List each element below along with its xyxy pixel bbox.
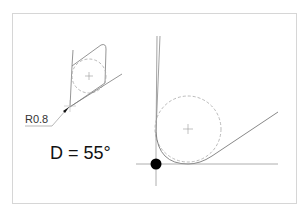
angle-label: D = 55° — [50, 143, 111, 164]
contact-point-dot — [151, 159, 162, 170]
diagram-canvas — [0, 0, 305, 212]
radius-label: R0.8 — [25, 113, 48, 125]
detail-edge-line-2 — [156, 36, 157, 140]
insert-cutting-edge-line — [68, 74, 122, 108]
insert-reference-line — [72, 50, 73, 66]
nose-detail-view — [136, 36, 278, 186]
nose-profile-arc — [156, 112, 278, 164]
